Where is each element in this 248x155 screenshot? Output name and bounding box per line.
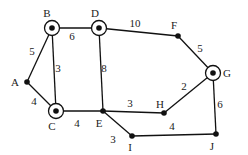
node-label-B: B (43, 7, 50, 19)
edge-H-G (164, 73, 213, 113)
edge-weight-E-H: 3 (127, 97, 133, 109)
node-label-A: A (11, 76, 19, 88)
edge-weight-I-J: 4 (169, 120, 175, 132)
node-I (129, 133, 135, 139)
edge-E-I (103, 111, 132, 136)
node-label-G: G (223, 67, 231, 79)
node-H (161, 110, 167, 116)
node-E (100, 108, 106, 114)
node-J (213, 131, 219, 137)
node-G (210, 70, 216, 76)
edge-weight-C-E: 4 (74, 117, 80, 129)
edge-weight-F-G: 5 (197, 42, 203, 54)
edge-G-J (213, 73, 216, 134)
weighted-graph-diagram: 54361085433264 ABCDEFGHIJ (0, 0, 248, 155)
node-label-D: D (91, 7, 99, 19)
edge-weight-B-C: 3 (55, 62, 61, 74)
node-label-J: J (210, 140, 215, 152)
node-C (53, 108, 59, 114)
node-F (175, 33, 181, 39)
node-label-E: E (96, 117, 103, 129)
edge-weight-A-B: 5 (29, 45, 35, 57)
node-B (49, 25, 55, 31)
node-label-I: I (128, 141, 132, 153)
node-A (24, 79, 30, 85)
edge-weight-D-F: 10 (130, 17, 142, 29)
edge-weight-G-J: 6 (217, 98, 223, 110)
edge-D-F (99, 28, 178, 36)
node-D (96, 25, 102, 31)
node-label-F: F (171, 19, 177, 31)
edge-E-H (103, 111, 164, 113)
edge-weight-D-E: 8 (101, 62, 107, 74)
node-label-C: C (48, 120, 55, 132)
edge-weight-H-G: 2 (181, 80, 187, 92)
edge-I-J (132, 134, 216, 136)
edge-weight-E-I: 3 (110, 133, 116, 145)
edge-weights-layer: 54361085433264 (29, 17, 223, 145)
edge-weight-B-D: 6 (69, 30, 75, 42)
node-label-H: H (156, 98, 164, 110)
edge-weight-A-C: 4 (31, 95, 37, 107)
